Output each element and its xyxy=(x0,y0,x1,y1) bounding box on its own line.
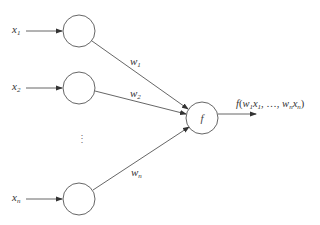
input-label-n: xn xyxy=(12,192,20,205)
output-node-label: f xyxy=(200,113,203,124)
input-label-1: x1 xyxy=(12,24,20,37)
vertical-ellipsis: ⋮ xyxy=(77,136,87,141)
neuron-diagram xyxy=(0,0,320,225)
weight-sub: 1 xyxy=(137,61,141,69)
input-node-1 xyxy=(63,15,95,47)
weight-edge-n xyxy=(93,127,189,190)
output-separator: , …, xyxy=(261,98,282,109)
input-node-n xyxy=(63,183,95,215)
input-sub: 1 xyxy=(17,29,21,37)
weight-label-n: wn xyxy=(131,167,142,180)
output-paren-close: ) xyxy=(301,98,305,109)
input-node-2 xyxy=(63,72,95,104)
output-function-label: f(w1x1, …, wnxn) xyxy=(236,99,304,111)
weight-sub: 2 xyxy=(137,93,141,101)
weight-label-1: w1 xyxy=(130,56,141,69)
weight-label-2: w2 xyxy=(130,88,141,101)
input-sub: 2 xyxy=(17,86,21,94)
input-label-2: x2 xyxy=(12,81,20,94)
weight-sub: n xyxy=(138,172,142,180)
input-sub: n xyxy=(17,197,21,205)
